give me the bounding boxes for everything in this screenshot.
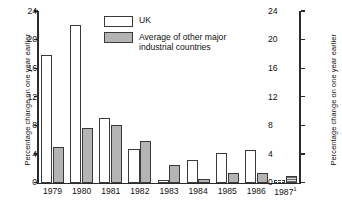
bar-1984-series0 (187, 160, 198, 183)
y-tick-label-left: 4 (0, 150, 37, 159)
y-tick-label-right: 24 (268, 7, 308, 16)
y-tick-label-left: 24 (0, 7, 37, 16)
bar-1981-series0 (99, 118, 110, 182)
bar-1984-series1 (198, 179, 209, 183)
bar-1983-series0 (158, 180, 169, 182)
legend-item-label: Average of other major industrial countr… (139, 32, 226, 52)
uk-swatch (104, 16, 133, 27)
legend-item-label: UK (139, 15, 151, 25)
y-tick-label-left: 8 (0, 121, 37, 130)
bar-1985-series0 (216, 153, 227, 182)
bar-1979-series0 (41, 55, 52, 182)
legend-item-other-countries: Average of other major industrial countr… (104, 32, 294, 52)
chart-legend: UKAverage of other major industrial coun… (104, 15, 294, 57)
legend-item-uk: UK (104, 15, 294, 27)
y-tick-label-left: 16 (0, 64, 37, 73)
x-axis-baseline (38, 183, 300, 184)
bar-1983-series1 (169, 165, 180, 183)
bar-1980-series1 (82, 128, 93, 182)
bar-1982-series1 (140, 141, 151, 182)
y-tick-label-right: 0 (268, 178, 308, 187)
bar-1986-series1 (257, 173, 268, 183)
other-swatch (104, 32, 133, 43)
bar-1982-series0 (128, 149, 139, 183)
y-tick-label-left: 20 (0, 35, 37, 44)
x-tick-label-1987: 19871 (265, 187, 305, 196)
x-tick-label-footnote-mark: 1 (293, 186, 296, 192)
bar-1979-series1 (53, 147, 64, 183)
bar-1985-series1 (228, 173, 239, 182)
y-tick-label-right: 16 (268, 64, 308, 73)
bar-1981-series1 (111, 125, 122, 183)
y-tick-label-left: 0 (0, 178, 37, 187)
bar-chart: Percentage change on one year earlier Pe… (0, 0, 342, 213)
y-tick-label-right: 8 (268, 121, 308, 130)
y-axis-title-right: Percentage change on one year earlier (330, 10, 337, 190)
bar-1980-series0 (70, 25, 81, 182)
y-tick-label-right: 12 (268, 93, 308, 102)
y-tick-label-left: 12 (0, 93, 37, 102)
y-axis-left-spine (37, 11, 38, 184)
y-tick-label-right: 4 (268, 150, 308, 159)
bar-1986-series0 (245, 150, 256, 182)
